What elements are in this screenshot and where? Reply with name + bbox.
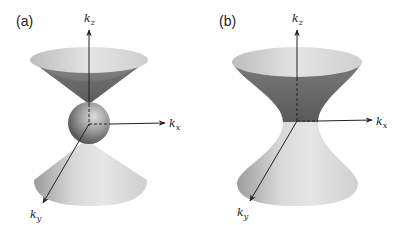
- axis-label-ky-b: ky: [237, 206, 249, 221]
- panel-label-b: (b): [219, 13, 236, 29]
- figure: (a) kz kx ky (b): [0, 0, 408, 225]
- panel-b: (b) kz kx ky: [219, 12, 388, 221]
- sphere: [68, 102, 110, 144]
- diagram-canvas: (a) kz kx ky (b): [0, 0, 408, 225]
- panel-a: (a) kz kx ky: [16, 12, 181, 223]
- bottom-cone: [34, 140, 147, 206]
- axis-label-kz-b: kz: [292, 12, 304, 27]
- panel-label-a: (a): [16, 13, 33, 29]
- axis-label-kx-a: kx: [169, 117, 181, 132]
- axis-label-kx-b: kx: [376, 115, 388, 130]
- axis-label-kz-a: kz: [84, 12, 96, 27]
- axis-label-ky-a: ky: [30, 208, 42, 223]
